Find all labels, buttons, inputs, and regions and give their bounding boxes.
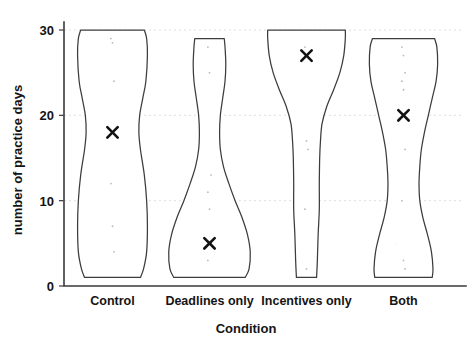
data-point: [207, 260, 209, 262]
data-point: [207, 46, 209, 48]
data-point: [210, 174, 212, 176]
data-point: [403, 55, 405, 57]
data-point: [304, 46, 306, 48]
x-category-label-deadlines-only: Deadlines only: [165, 294, 253, 308]
data-point: [306, 140, 308, 142]
violin-both: [369, 39, 437, 278]
y-tick-label: 10: [40, 194, 54, 209]
violin-incentives-only: [268, 30, 346, 277]
y-axis-title: number of practice days: [10, 85, 25, 235]
data-point: [404, 72, 406, 74]
data-point: [401, 80, 403, 82]
y-tick-label: 20: [40, 108, 54, 123]
data-point: [112, 42, 114, 44]
data-point: [110, 183, 112, 185]
data-point: [403, 89, 405, 91]
data-point: [207, 191, 209, 193]
x-category-label-both: Both: [389, 294, 417, 308]
data-point: [110, 38, 112, 40]
violin-plot-figure: 0102030 ControlDeadlines onlyIncentives …: [0, 0, 472, 343]
data-point: [401, 46, 403, 48]
data-point: [306, 268, 308, 270]
mean-markers: [107, 50, 408, 248]
y-tick-label: 30: [40, 23, 54, 38]
data-point: [404, 268, 406, 270]
x-category-label-incentives-only: Incentives only: [261, 294, 351, 308]
data-point: [304, 208, 306, 210]
data-point: [307, 149, 309, 151]
data-point: [112, 225, 114, 227]
data-point: [404, 149, 406, 151]
data-point: [403, 260, 405, 262]
data-point: [113, 80, 115, 82]
x-category-label-control: Control: [90, 294, 134, 308]
data-point: [401, 200, 403, 202]
data-point: [209, 72, 211, 74]
violin-control: [78, 30, 148, 277]
y-tick-label: 0: [47, 279, 54, 294]
data-point: [209, 208, 211, 210]
data-point: [113, 251, 115, 253]
violin-shapes: [78, 30, 438, 277]
x-axis-title: Condition: [216, 321, 277, 336]
chart-canvas: 0102030 ControlDeadlines onlyIncentives …: [0, 0, 472, 343]
y-axis-ticks: 0102030: [40, 23, 64, 294]
x-axis-category-labels: ControlDeadlines onlyIncentives onlyBoth: [90, 294, 417, 308]
